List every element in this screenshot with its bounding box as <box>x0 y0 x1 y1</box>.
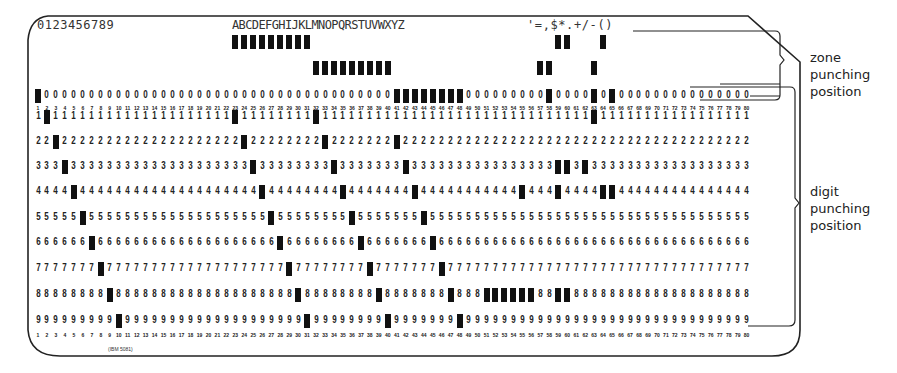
column-number: 35 <box>338 105 347 111</box>
digit-position: 6 <box>644 236 651 247</box>
punch-hole <box>448 288 454 302</box>
digit-position: 1 <box>743 110 750 121</box>
column-number: 22 <box>222 105 231 111</box>
digit-position: 7 <box>124 262 131 273</box>
digit-position: 2 <box>330 135 337 146</box>
column-number: 28 <box>276 332 285 338</box>
digit-position: 7 <box>160 262 167 273</box>
punch-hole <box>394 135 400 149</box>
digit-position: 1 <box>259 110 266 121</box>
digit-position: 6 <box>268 236 275 247</box>
column-number: 1 <box>34 332 43 338</box>
digit-position: 4 <box>97 185 104 196</box>
digit-position: 9 <box>286 314 293 325</box>
digit-position: 5 <box>635 211 642 222</box>
digit-position: 3 <box>725 160 732 171</box>
digit-position: 5 <box>429 211 436 222</box>
digit-position: 6 <box>34 236 41 247</box>
column-number: 36 <box>347 105 356 111</box>
digit-position: 1 <box>106 110 113 121</box>
punch-hole <box>519 288 525 302</box>
digit-position: 8 <box>393 288 400 299</box>
digit-position: 1 <box>88 110 95 121</box>
digit-position: 8 <box>384 288 391 299</box>
digit-position: 6 <box>474 236 481 247</box>
column-number: 27 <box>267 105 276 111</box>
column-number: 8 <box>96 332 105 338</box>
digit-position: 6 <box>510 236 517 247</box>
digit-position: 8 <box>600 288 607 299</box>
digit-position: 9 <box>160 314 167 325</box>
digit-position: 8 <box>546 288 553 299</box>
column-number: 57 <box>536 105 545 111</box>
digit-position: 5 <box>151 211 158 222</box>
digit-position: 0 <box>501 89 508 100</box>
punch-hole <box>439 89 445 103</box>
column-number: 9 <box>105 332 114 338</box>
digit-position: 7 <box>169 262 176 273</box>
column-number: 51 <box>482 105 491 111</box>
digit-position: 1 <box>707 110 714 121</box>
column-number: 17 <box>177 332 186 338</box>
digit-position: 7 <box>187 262 194 273</box>
digit-position: 1 <box>680 110 687 121</box>
column-number: 71 <box>661 332 670 338</box>
digit-position: 4 <box>295 185 302 196</box>
digit-position: 6 <box>501 236 508 247</box>
column-number: 65 <box>608 105 617 111</box>
digit-position: 2 <box>106 135 113 146</box>
digit-position: 6 <box>375 236 382 247</box>
digit-position: 3 <box>420 160 427 171</box>
punch-hole <box>412 185 418 199</box>
digit-position: 1 <box>456 110 463 121</box>
digit-position: 3 <box>286 160 293 171</box>
digit-position: 3 <box>546 160 553 171</box>
punch-hole <box>582 160 588 174</box>
digit-position: 6 <box>528 236 535 247</box>
column-number: 40 <box>383 332 392 338</box>
digit-position: 1 <box>196 110 203 121</box>
digit-position: 7 <box>312 262 319 273</box>
column-number: 25 <box>249 332 258 338</box>
punch-hole <box>80 211 86 225</box>
digit-position: 9 <box>564 314 571 325</box>
digit-position: 0 <box>97 89 104 100</box>
digit-position: 1 <box>492 110 499 121</box>
digit-position: 1 <box>734 110 741 121</box>
digit-position: 4 <box>375 185 382 196</box>
digit-position: 9 <box>133 314 140 325</box>
punch-hole <box>107 288 113 302</box>
punch-hole <box>286 262 292 276</box>
digit-position: 3 <box>438 160 445 171</box>
punch-hole <box>609 185 615 199</box>
digit-position: 9 <box>510 314 517 325</box>
digit-position: 9 <box>34 314 41 325</box>
digit-position: 4 <box>573 185 580 196</box>
column-number: 80 <box>742 105 751 111</box>
digit-position: 4 <box>133 185 140 196</box>
digit-position: 8 <box>312 288 319 299</box>
digit-position: 9 <box>653 314 660 325</box>
digit-position: 9 <box>537 314 544 325</box>
column-number: 32 <box>312 332 321 338</box>
digit-position: 6 <box>79 236 86 247</box>
zone-punch-hole <box>385 61 391 75</box>
column-number: 38 <box>365 332 374 338</box>
digit-position: 5 <box>680 211 687 222</box>
digit-position: 4 <box>680 185 687 196</box>
digit-position: 6 <box>591 236 598 247</box>
digit-position: 4 <box>716 185 723 196</box>
digit-position: 9 <box>546 314 553 325</box>
digit-position: 4 <box>43 185 50 196</box>
digit-position: 2 <box>339 135 346 146</box>
digit-position: 1 <box>537 110 544 121</box>
digit-position: 9 <box>644 314 651 325</box>
column-number: 72 <box>670 105 679 111</box>
column-number: 30 <box>294 332 303 338</box>
digit-position: 3 <box>277 160 284 171</box>
digit-position: 2 <box>456 135 463 146</box>
digit-position: 1 <box>519 110 526 121</box>
zone-punch-hole <box>591 61 597 75</box>
column-number: 22 <box>222 332 231 338</box>
digit-position: 4 <box>653 185 660 196</box>
